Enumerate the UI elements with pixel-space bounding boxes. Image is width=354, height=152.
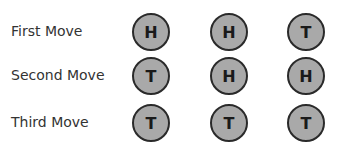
row-label: Third Move <box>11 114 89 130</box>
row-third-move: Third Move T T T <box>0 100 354 144</box>
row-first-move: First Move H H T <box>0 9 354 53</box>
row-label: First Move <box>11 23 82 39</box>
coin-icon: H <box>287 57 325 95</box>
coin-icon: H <box>132 13 170 51</box>
row-second-move: Second Move T H H <box>0 53 354 97</box>
coin-icon: T <box>132 57 170 95</box>
coin-icon: T <box>287 13 325 51</box>
coin-icon: T <box>132 104 170 142</box>
coin-icon: H <box>210 13 248 51</box>
coin-icon: T <box>287 104 325 142</box>
row-label: Second Move <box>11 67 105 83</box>
coin-icon: H <box>210 57 248 95</box>
coin-icon: T <box>210 104 248 142</box>
